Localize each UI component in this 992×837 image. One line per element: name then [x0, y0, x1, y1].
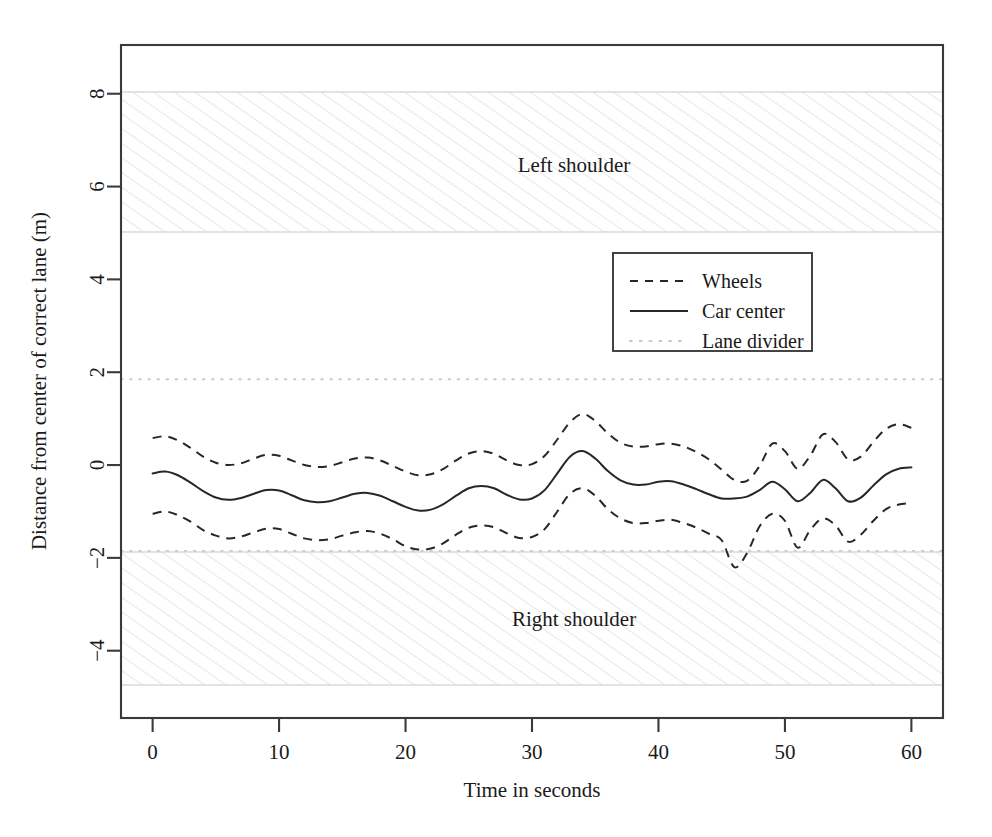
y-tick-label--2: −2 [85, 547, 109, 569]
y-tick-label-4: 4 [85, 274, 109, 285]
chart-legend: Wheels Car center Lane divider [613, 253, 812, 352]
y-axis-title: Distance from center of correct lane (m) [27, 212, 51, 550]
x-tick-label-10: 10 [269, 740, 290, 764]
x-tick-label-0: 0 [147, 740, 158, 764]
x-axis-title: Time in seconds [464, 778, 601, 802]
legend-label-wheels: Wheels [702, 270, 762, 292]
left-shoulder-label: Left shoulder [518, 153, 631, 177]
y-tick-label-6: 6 [85, 181, 109, 192]
y-tick-label-8: 8 [85, 88, 109, 99]
y-tick-label-0: 0 [85, 460, 109, 471]
right-shoulder-label: Right shoulder [512, 607, 636, 631]
legend-label-car-center: Car center [702, 300, 785, 322]
legend-label-lane-divider: Lane divider [702, 330, 804, 352]
x-tick-label-40: 40 [648, 740, 669, 764]
x-tick-label-30: 30 [522, 740, 543, 764]
x-tick-label-50: 50 [774, 740, 795, 764]
x-tick-label-20: 20 [395, 740, 416, 764]
x-tick-label-60: 60 [901, 740, 922, 764]
y-tick-label--4: −4 [85, 639, 109, 662]
lane-position-chart: 0102030405060 −4−202468 Time in seconds … [0, 0, 992, 837]
chart-figure: 0102030405060 −4−202468 Time in seconds … [0, 0, 992, 837]
y-tick-label-2: 2 [85, 367, 109, 378]
